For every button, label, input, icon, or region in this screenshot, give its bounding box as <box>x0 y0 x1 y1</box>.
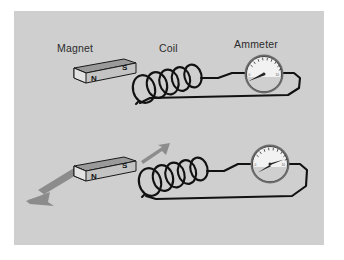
figure-canvas: Magnet Coil Ammeter N S <box>0 0 344 260</box>
magnet-south-label-bottom: S <box>122 161 128 170</box>
ammeter-scale-max-bottom: 10 <box>282 163 286 167</box>
ammeter-top: 0 10 <box>245 55 284 94</box>
ammeter-label: Ammeter <box>234 38 278 50</box>
ammeter-pivot-top <box>263 73 266 76</box>
magnet-north-label: N <box>91 74 97 83</box>
ammeter-pivot-bottom <box>269 163 272 166</box>
magnet-south-label: S <box>122 63 128 72</box>
induction-figure: Magnet Coil Ammeter N S <box>0 0 344 260</box>
ammeter-bottom: 0 10 <box>251 145 290 184</box>
magnet-north-label-bottom: N <box>91 172 97 181</box>
magnet-label: Magnet <box>57 42 93 54</box>
ammeter-scale-max-top: 10 <box>276 73 280 77</box>
ammeter-scale-min-bottom: 0 <box>255 163 257 167</box>
coil-label: Coil <box>159 42 178 54</box>
ammeter-scale-min-top: 0 <box>249 73 251 77</box>
